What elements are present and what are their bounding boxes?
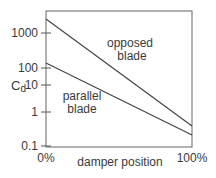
x-tick-label-0: 0% xyxy=(37,151,55,165)
y-tick-label-100: 100 xyxy=(18,61,38,75)
y-axis-label-sub: d xyxy=(20,83,26,94)
x-tick-label-100: 100% xyxy=(177,151,208,165)
plot-frame xyxy=(46,11,192,147)
y-tick-label-10: 10 xyxy=(25,78,39,92)
y-tick-label-0-1: 0.1 xyxy=(21,139,38,153)
x-axis-label: damper position xyxy=(77,155,162,169)
annotation-opposed-line2: blade xyxy=(117,49,147,63)
y-tick-label-1: 1 xyxy=(31,105,38,119)
annotation-parallel-line1: parallel xyxy=(63,89,102,103)
chart: 1000 100 10 1 0.1 Cd 0% 100% damper posi… xyxy=(0,0,216,178)
y-tick-label-1000: 1000 xyxy=(11,26,38,40)
annotation-opposed-line1: opposed xyxy=(107,36,153,50)
y-axis-label-main: C xyxy=(11,78,20,93)
annotation-parallel-line2: blade xyxy=(67,102,97,116)
